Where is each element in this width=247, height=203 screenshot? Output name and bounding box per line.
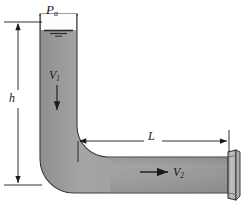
label-velocity-v1: V1 [49,69,60,82]
flange-ring [228,150,236,200]
label-height-h: h [9,92,15,104]
pipe-flow-diagram: Pa h V1 L V2 [0,0,247,203]
pipe-body [40,14,228,193]
label-velocity-v2: V2 [173,166,184,179]
horizontal-pipe-shading [110,158,227,193]
discharge-flange [228,150,240,200]
flange-outer-face [236,150,240,200]
diagram-canvas [0,0,247,203]
label-length-l: L [148,130,155,142]
label-ambient-pressure: Pa [46,3,58,18]
